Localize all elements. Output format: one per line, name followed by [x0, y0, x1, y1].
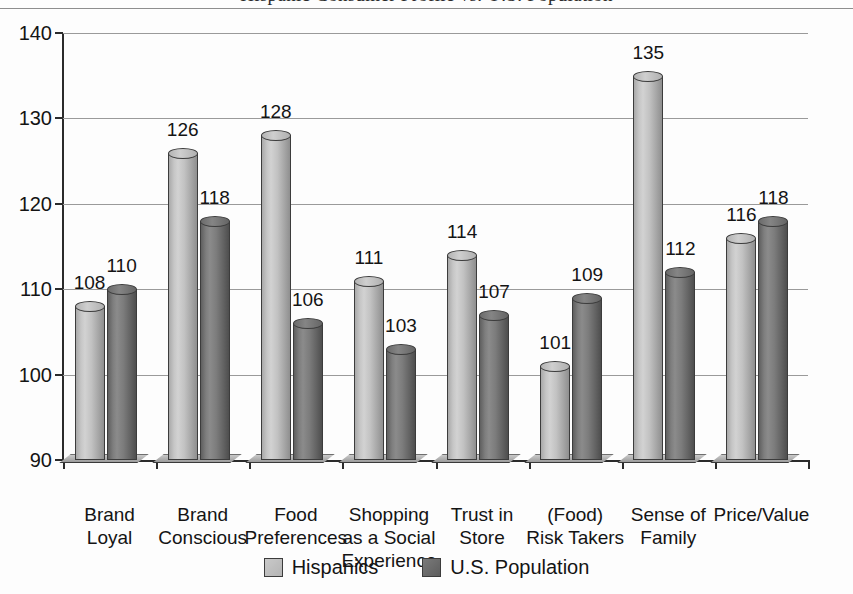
bar-value-label: 106 — [292, 289, 324, 311]
bar-hispanics — [447, 250, 477, 460]
bar-value-label: 112 — [665, 238, 695, 260]
bar-us-population — [758, 216, 788, 460]
bar-us-population — [386, 344, 416, 460]
gridline — [63, 33, 808, 34]
bar-top-cap — [572, 293, 602, 304]
x-axis-category-label: Trust in Store — [451, 503, 514, 549]
bar-top-cap — [200, 216, 230, 227]
legend-item-us-population: U.S. Population — [422, 556, 589, 579]
y-axis-tick-label: 100 — [19, 363, 52, 386]
y-axis-tick-label: 90 — [30, 449, 52, 472]
bar-value-label: 128 — [260, 101, 292, 123]
bar-us-population — [293, 318, 323, 460]
top-divider-rule — [0, 8, 853, 9]
bar-body — [293, 323, 323, 460]
bar-us-population — [107, 284, 137, 460]
bar-value-label: 114 — [447, 221, 477, 243]
bar-body — [261, 135, 291, 460]
x-axis-category-label: (Food) Risk Takers — [526, 503, 624, 549]
y-axis-tick — [55, 203, 63, 205]
bar-value-label: 135 — [632, 42, 664, 64]
bar-body — [540, 366, 570, 460]
bar-body — [726, 238, 756, 460]
bar-body — [75, 306, 105, 460]
bar-top-cap — [168, 148, 198, 159]
y-axis — [62, 33, 64, 461]
bar-body — [354, 281, 384, 460]
x-axis-category-label: Food Preferences — [245, 503, 347, 549]
chart-title-text: Hispanic Consumer Profile vs. U.S. Popul… — [240, 0, 612, 5]
bar-us-population — [479, 310, 509, 460]
y-axis-tick — [55, 288, 63, 290]
chart-figure: Hispanic Consumer Profile vs. U.S. Popul… — [0, 0, 853, 594]
bar-us-population — [665, 267, 695, 460]
y-axis-tick-label: 120 — [19, 192, 52, 215]
bar-top-cap — [107, 284, 137, 295]
bar-body — [758, 221, 788, 460]
bar-us-population — [572, 293, 602, 460]
bar-top-cap — [758, 216, 788, 227]
legend-swatch-icon — [422, 558, 441, 577]
legend-swatch-icon — [264, 558, 283, 577]
bar-hispanics — [726, 233, 756, 460]
bar-value-label: 116 — [726, 204, 756, 226]
bar-body — [386, 349, 416, 460]
legend-label: Hispanics — [292, 556, 379, 579]
legend-label: U.S. Population — [450, 556, 589, 579]
legend-item-hispanics: Hispanics — [264, 556, 379, 579]
bar-value-label: 101 — [539, 332, 571, 354]
chart-title-fragment: Hispanic Consumer Profile vs. U.S. Popul… — [0, 0, 853, 6]
bar-body — [168, 153, 198, 460]
bar-body — [107, 289, 137, 460]
x-axis-category-label: Sense of Family — [631, 503, 706, 549]
bar-hispanics — [261, 130, 291, 460]
y-axis-tick-label: 130 — [19, 107, 52, 130]
bar-top-cap — [354, 276, 384, 287]
bar-value-label: 110 — [106, 255, 136, 277]
bar-body — [633, 76, 663, 460]
x-axis-tick — [808, 460, 810, 469]
bar-hispanics — [354, 276, 384, 460]
bar-body — [447, 255, 477, 460]
y-axis-tick — [55, 32, 63, 34]
bar-hispanics — [540, 361, 570, 460]
bar-hispanics — [633, 71, 663, 460]
bar-top-cap — [386, 344, 416, 355]
bar-value-label: 108 — [74, 272, 106, 294]
bar-body — [572, 298, 602, 460]
bar-value-label: 109 — [571, 264, 603, 286]
bar-top-cap — [479, 310, 509, 321]
x-axis-category-label: Brand Loyal — [84, 503, 135, 549]
bar-top-cap — [447, 250, 477, 261]
y-axis-tick-label: 140 — [19, 22, 52, 45]
bar-value-label: 126 — [167, 119, 199, 141]
bar-top-cap — [633, 71, 663, 82]
x-axis-category-label: Price/Value — [714, 503, 810, 526]
bar-hispanics — [75, 301, 105, 460]
x-axis-category-label: Brand Conscious — [158, 503, 247, 549]
bar-value-label: 111 — [354, 247, 383, 269]
bar-value-label: 118 — [200, 187, 230, 209]
bar-us-population — [200, 216, 230, 460]
y-axis-tick-label: 110 — [20, 278, 52, 301]
bar-value-label: 103 — [385, 315, 417, 337]
bar-value-label: 107 — [478, 281, 510, 303]
bar-body — [665, 272, 695, 460]
y-axis-tick — [55, 374, 63, 376]
plot-area: 90100110120130140108110Brand Loyal126118… — [63, 33, 808, 460]
y-axis-tick — [55, 117, 63, 119]
bar-body — [479, 315, 509, 460]
bar-hispanics — [168, 148, 198, 460]
bar-value-label: 118 — [758, 187, 788, 209]
chart-legend: Hispanics U.S. Population — [0, 556, 853, 579]
bar-body — [200, 221, 230, 460]
